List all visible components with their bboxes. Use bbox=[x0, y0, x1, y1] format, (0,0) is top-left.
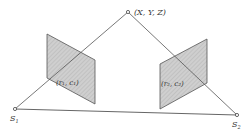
world-point-label: (X, Y, Z) bbox=[134, 8, 166, 17]
world-point bbox=[126, 10, 129, 13]
left-image-plane bbox=[47, 34, 95, 104]
baseline bbox=[15, 109, 237, 115]
camera1-point bbox=[13, 107, 16, 110]
camera2-label: S2 bbox=[232, 120, 241, 130]
camera1-label: S1 bbox=[10, 114, 19, 124]
stereo-vision-diagram: (X, Y, Z) (r₁, c₁) (r₂, c₂) S1 S2 bbox=[0, 0, 244, 135]
image2-label: (r₂, c₂) bbox=[161, 80, 184, 88]
ray-s1-to-point bbox=[15, 12, 128, 109]
camera2-point bbox=[235, 113, 238, 116]
ray-s2-to-point bbox=[128, 12, 237, 115]
right-image-plane bbox=[160, 39, 207, 109]
image1-label: (r₁, c₁) bbox=[56, 79, 79, 87]
